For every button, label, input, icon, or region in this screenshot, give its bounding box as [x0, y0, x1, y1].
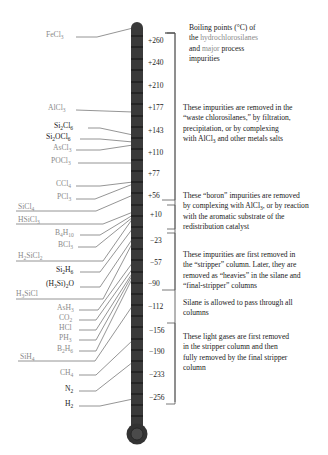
- label-b2h6: B2H6: [57, 344, 73, 354]
- note-waste-chlorosilanes: These impurities are removed in the “was…: [183, 103, 328, 144]
- label-h2sicl2: H2SiCl2: [18, 251, 43, 261]
- note-silane: Silane is allowed to pass through all co…: [183, 298, 328, 319]
- label-h2: H2: [65, 399, 73, 409]
- boiling-point-thermometer-diagram: +260 +240 +210 +177 +143 +110 +77 +56 +1…: [0, 0, 328, 455]
- label-si2h6: Si2H6: [56, 265, 73, 275]
- note-light-gases: These light gases are first removed in t…: [183, 332, 328, 373]
- label-bcl3: BCl3: [58, 240, 73, 250]
- label-n2: N2: [65, 384, 73, 394]
- label-b4h10: B4H10: [55, 228, 74, 238]
- label-si2ocl6: Si2OCl6: [46, 132, 71, 142]
- label-hcl: HCl: [59, 323, 72, 333]
- label-ch4: CH4: [60, 368, 73, 378]
- legend-title: Boiling points (°C) of the hydrochlorosi…: [189, 23, 324, 64]
- label-h3si2o: (H3Si)2O: [46, 279, 74, 289]
- label-ccl4: CCl4: [56, 179, 71, 189]
- note-heavies: These impurities are first removed in th…: [183, 250, 328, 291]
- note-boron-impurities: These “boron” impurities are removed by …: [183, 191, 328, 232]
- label-ph3: PH3: [59, 333, 71, 343]
- label-hsicl3: HSiCl3: [18, 215, 40, 225]
- label-h3sicl: H3SiCl: [16, 289, 38, 299]
- label-ascl3: AsCl3: [53, 143, 71, 153]
- label-fecl3: FeCl3: [46, 30, 64, 40]
- label-alcl3: AlCl3: [48, 103, 66, 113]
- label-pcl3: PCl3: [57, 192, 71, 202]
- label-pocl3: POCl3: [51, 156, 71, 166]
- label-sih4: SiH4: [20, 352, 35, 362]
- label-sicl4: SiCl4: [18, 202, 34, 212]
- label-ash3: AsH3: [57, 303, 74, 313]
- label-si2cl6: Si2Cl6: [54, 121, 73, 131]
- label-co2: CO2: [59, 313, 72, 323]
